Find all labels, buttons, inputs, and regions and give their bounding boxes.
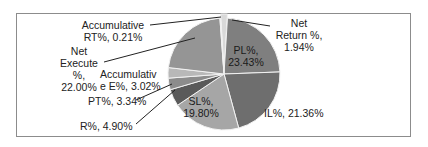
label-pl-line2: 23.43% [222,56,270,68]
label-net-return-line1: Net [270,17,328,29]
label-net-return-line2: Return %, [270,29,328,41]
label-il: IL%, 21.36% [264,107,324,119]
label-acc-e-line1: Accumulativ [100,68,156,80]
label-pl-line1: PL%, [222,44,270,56]
label-sl-line1: SL%, [177,95,225,107]
label-net-return-line3: 1.94% [270,41,328,53]
label-net-execute: Net Execute %, 22.00% [56,45,102,93]
label-net-exec-line4: 22.00% [56,81,102,93]
pie-slice-net-execute [168,18,224,74]
label-acc-rt-line2: RT%, 0.21% [80,31,146,43]
label-accumulative-e: Accumulativ e E%, 3.02% [100,68,156,92]
label-il-line1: IL%, 21.36% [264,107,324,119]
label-r-line1: R%, 4.90% [80,120,132,132]
label-acc-e-line2: e E%, 3.02% [100,80,156,92]
label-pt-line1: PT%, 3.34% [88,95,140,107]
label-r: R%, 4.90% [80,120,132,132]
label-pt: PT%, 3.34% [88,95,140,107]
label-acc-rt-line1: Accumulative [80,19,146,31]
label-pl: PL%, 23.43% [222,44,270,68]
label-net-exec-line3: %, [56,69,102,81]
label-net-exec-line1: Net [56,45,102,57]
label-net-exec-line2: Execute [56,57,102,69]
label-net-return: Net Return %, 1.94% [270,17,328,53]
label-accumulative-rt: Accumulative RT%, 0.21% [80,19,146,43]
label-sl-line2: 19.80% [177,107,225,119]
label-sl: SL%, 19.80% [177,95,225,119]
